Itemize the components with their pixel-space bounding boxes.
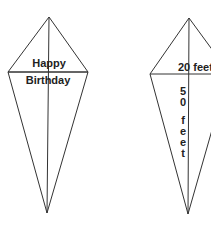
right-kite-height-label: 5 0 f e e t	[180, 85, 186, 159]
right-kite-width-label: 20 feet	[178, 61, 211, 73]
left-kite-text-happy: Happy	[32, 57, 67, 69]
height-char: t	[181, 147, 185, 159]
kite-diagram: Happy Birthday 20 feet 5 0 f e e t	[0, 0, 211, 226]
left-kite-text-birthday: Birthday	[26, 74, 72, 86]
left-kite	[8, 17, 88, 213]
right-kite-spine	[188, 18, 189, 214]
height-char: 0	[180, 96, 186, 108]
left-kite-spine	[47, 17, 49, 213]
